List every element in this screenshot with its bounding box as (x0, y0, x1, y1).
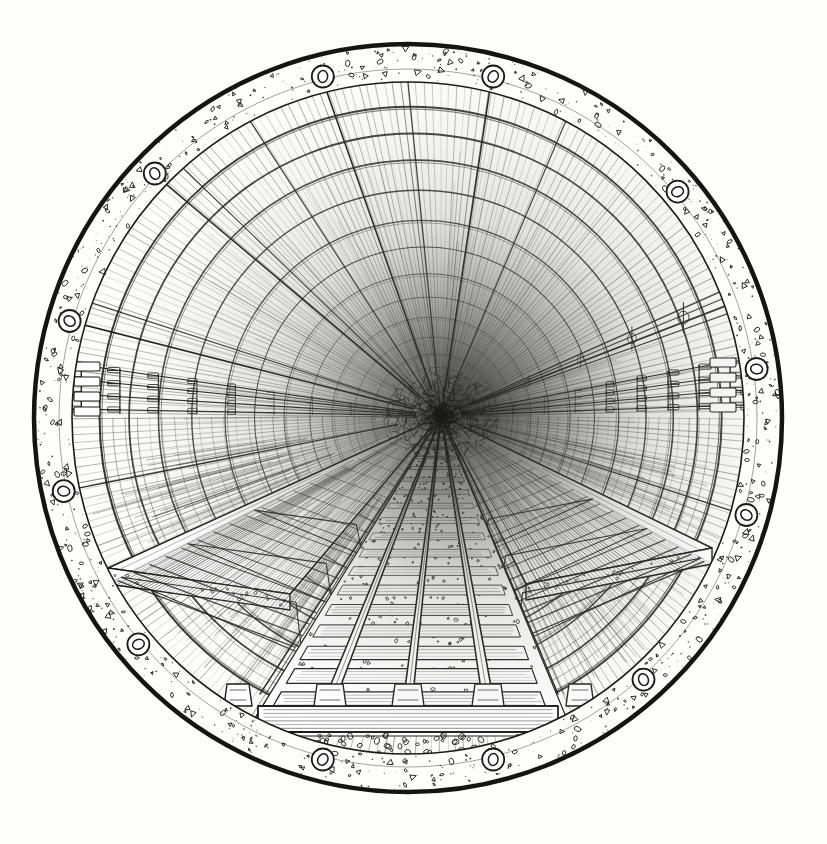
aggregate-speckle (591, 707, 593, 709)
aggregate-speckle (57, 434, 58, 435)
aggregate-speckle (704, 206, 706, 208)
aggregate-speckle (353, 78, 354, 79)
aggregate-speckle (126, 179, 127, 180)
aggregate-speckle (250, 725, 252, 727)
aggregate-speckle (113, 628, 115, 630)
aggregate-speckle (286, 84, 287, 85)
aggregate-speckle (84, 539, 86, 541)
aggregate-speckle (575, 123, 576, 124)
aggregate-speckle (64, 374, 66, 376)
aggregate-speckle (236, 720, 237, 721)
segment-bolt-ring (53, 480, 75, 502)
aggregate-speckle (581, 742, 582, 743)
aggregate-speckle (232, 120, 233, 121)
aggregate-speckle (689, 627, 690, 628)
aggregate-speckle (87, 288, 88, 289)
aggregate-speckle (775, 426, 776, 427)
aggregate-speckle (627, 686, 628, 687)
aggregate-speckle (765, 472, 766, 473)
aggregate-speckle (199, 709, 200, 710)
aggregate-speckle (283, 81, 284, 82)
aggregate-speckle (214, 123, 216, 125)
aggregate-speckle (46, 347, 48, 349)
aggregate-speckle (469, 758, 471, 760)
aggregate-speckle (83, 284, 84, 285)
aggregate-speckle (175, 129, 177, 131)
aggregate-speckle (222, 731, 223, 732)
aggregate-speckle (251, 751, 252, 752)
aggregate-speckle (655, 654, 656, 655)
aggregate-speckle (38, 439, 39, 440)
aggregate-speckle (689, 611, 691, 613)
aggregate-speckle (108, 249, 110, 251)
aggregate-speckle (270, 736, 272, 738)
aggregate-speckle (720, 259, 722, 261)
aggregate-speckle (214, 138, 215, 139)
aggregate-speckle (572, 732, 573, 733)
aggregate-speckle (52, 509, 54, 511)
aggregate-speckle (83, 538, 84, 539)
aggregate-speckle (697, 637, 699, 639)
aggregate-speckle (50, 366, 51, 367)
aggregate-speckle (267, 747, 269, 749)
aggregate-speckle (510, 764, 512, 766)
aggregate-speckle (115, 219, 116, 220)
aggregate-speckle (276, 74, 277, 75)
aggregate-speckle (71, 560, 73, 562)
aggregate-speckle (94, 603, 95, 604)
aggregate-speckle (565, 112, 566, 113)
aggregate-speckle (252, 742, 253, 743)
aggregate-speckle (693, 188, 694, 189)
aggregate-speckle (66, 382, 67, 383)
aggregate-speckle (112, 585, 114, 587)
aggregate-speckle (533, 751, 534, 752)
aggregate-speckle (712, 259, 714, 261)
aggregate-speckle (418, 61, 419, 62)
aggregate-speckle (166, 169, 167, 170)
cable-tray-endplate (74, 392, 100, 401)
aggregate-speckle (351, 66, 353, 68)
aggregate-speckle (111, 612, 112, 613)
aggregate-speckle (707, 211, 709, 213)
aggregate-speckle (121, 215, 122, 216)
cable-tray-endplate (74, 407, 100, 416)
aggregate-speckle (597, 119, 599, 121)
aggregate-speckle (240, 712, 241, 713)
aggregate-speckle (573, 117, 574, 118)
aggregate-speckle (171, 681, 172, 682)
aggregate-speckle (466, 71, 467, 72)
aggregate-speckle (254, 114, 256, 116)
aggregate-speckle (672, 179, 674, 181)
segment-bolt-ring (144, 163, 166, 185)
aggregate-speckle (773, 385, 774, 386)
aggregate-speckle (368, 786, 370, 788)
aggregate-speckle (598, 130, 600, 132)
aggregate-speckle (682, 666, 683, 667)
aggregate-speckle (636, 143, 637, 144)
aggregate-speckle (485, 772, 486, 773)
aggregate-speckle (58, 292, 59, 293)
aggregate-speckle (323, 63, 325, 65)
aggregate-speckle (94, 611, 95, 612)
aggregate-speckle (440, 64, 441, 65)
aggregate-speckle (394, 788, 395, 789)
aggregate-speckle (603, 732, 604, 733)
aggregate-speckle (109, 226, 111, 228)
aggregate-speckle (576, 101, 577, 102)
aggregate-speckle (150, 187, 151, 188)
aggregate-speckle (304, 757, 306, 759)
aggregate-speckle (474, 766, 475, 767)
aggregate-speckle (381, 757, 383, 759)
aggregate-speckle (415, 756, 416, 757)
aggregate-speckle (581, 728, 583, 730)
aggregate-speckle (232, 741, 233, 742)
cable-tray-endplate (74, 377, 100, 386)
aggregate-speckle (59, 351, 60, 352)
aggregate-speckle (507, 767, 509, 769)
cable-tray-endplate (74, 362, 100, 371)
aggregate-speckle (668, 658, 669, 659)
aggregate-speckle (488, 62, 490, 64)
aggregate-speckle (488, 58, 490, 60)
aggregate-speckle (727, 259, 728, 260)
aggregate-speckle (728, 274, 730, 276)
